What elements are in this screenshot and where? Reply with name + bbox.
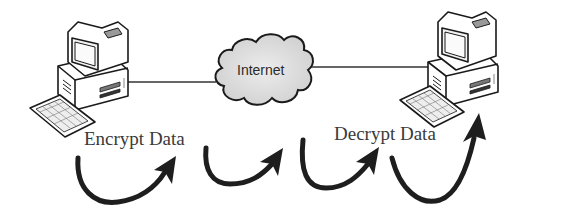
diagram-graphics [0, 0, 578, 222]
flow-arrow-1 [78, 156, 176, 202]
encrypt-data-label: Encrypt Data [84, 129, 185, 148]
receiver-computer-icon [400, 12, 498, 127]
decrypt-data-label: Decrypt Data [334, 124, 436, 143]
flow-arrow-3 [302, 140, 379, 188]
diagram-canvas: Internet Encrypt Data Decrypt Data [0, 0, 578, 222]
internet-label: Internet [237, 63, 284, 77]
sender-computer-icon [30, 22, 128, 137]
flow-arrow-2 [206, 148, 283, 184]
